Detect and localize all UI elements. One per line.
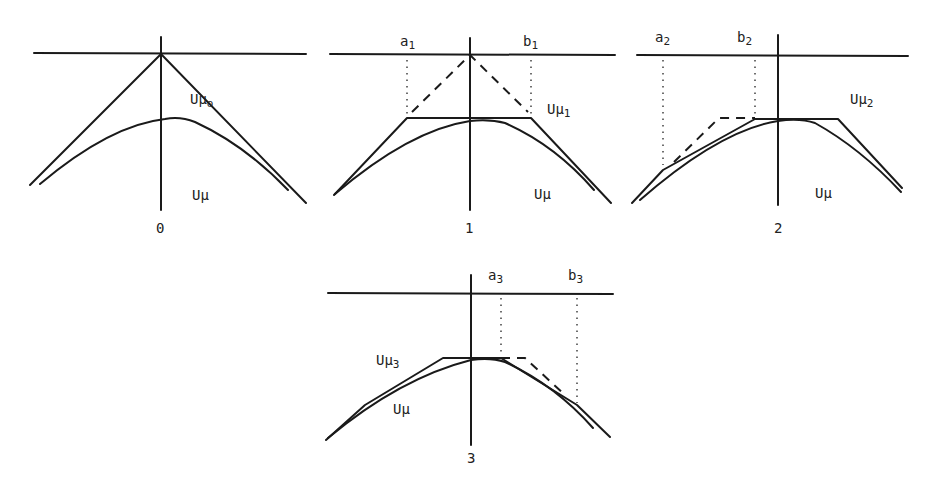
panel-3-curve-label: Uμ: [393, 402, 410, 416]
panel-1-curve-label: Uμ: [534, 187, 551, 201]
panel-2-a-label: a2: [655, 30, 670, 47]
panel-0-concave-curve: [40, 118, 288, 190]
panel-3-b-label: b3: [568, 268, 583, 285]
panel-3-approximation-polyline: [326, 358, 610, 440]
panel-0: [30, 37, 306, 210]
panel-2-caption: 2: [774, 221, 782, 235]
panel-0-approximation-polyline: [30, 54, 306, 203]
panel-1-b-label: b1: [523, 34, 538, 51]
panel-2-approximation-polyline: [632, 119, 902, 203]
panel-1-concave-curve: [335, 120, 594, 194]
panel-3-caption: 3: [467, 451, 475, 465]
panel-3-concave-curve: [328, 359, 593, 438]
panel-2: [632, 35, 908, 205]
panel-2-horizontal-axis: [637, 55, 908, 56]
panel-3-a-label: a3: [488, 268, 503, 285]
diagram-canvas: [0, 0, 943, 492]
panel-1-a-label: a1: [400, 34, 415, 51]
panel-0-horizontal-axis: [34, 53, 306, 54]
panel-3: [326, 275, 613, 445]
panel-1-approximation-label: Uμ1: [547, 102, 570, 119]
panel-1-horizontal-axis: [330, 54, 615, 55]
panel-1: [330, 38, 615, 210]
panel-0-approximation-label: Uμo: [190, 92, 213, 109]
panel-0-curve-label: Uμ: [192, 188, 209, 202]
panel-1-approximation-polyline: [334, 118, 611, 203]
panel-2-approximation-label: Uμ2: [850, 92, 873, 109]
panel-2-b-label: b2: [737, 30, 752, 47]
panel-0-caption: 0: [156, 221, 164, 235]
panel-2-curve-label: Uμ: [815, 186, 832, 200]
panel-1-caption: 1: [465, 221, 473, 235]
panel-3-approximation-label: Uμ3: [376, 353, 399, 370]
